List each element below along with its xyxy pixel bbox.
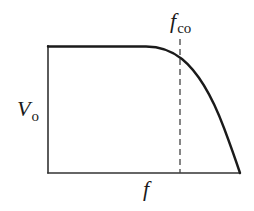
cutoff-label: fco <box>170 8 191 36</box>
y-axis-label-sub: o <box>31 108 39 124</box>
cutoff-label-sub: co <box>177 20 191 36</box>
frequency-response-diagram: fco Vo f <box>0 0 254 211</box>
axes <box>47 45 240 174</box>
response-curve <box>48 47 240 174</box>
x-axis-label: f <box>143 176 152 201</box>
y-axis-label: Vo <box>17 96 39 124</box>
